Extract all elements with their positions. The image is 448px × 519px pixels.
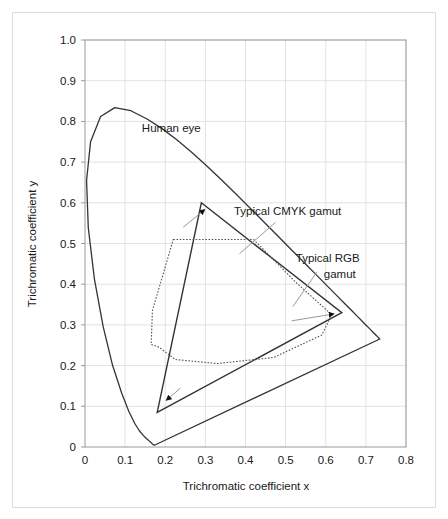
x-tick-labels: 00.10.20.30.40.50.60.70.8 — [82, 454, 414, 466]
chart-annotation-label: Human eye — [142, 122, 201, 134]
rgb-gamut-triangle — [157, 203, 342, 413]
y-tick-label: 0.9 — [60, 75, 76, 87]
x-tick-label: 0 — [82, 454, 88, 466]
y-axis-title: Trichromatic coefficient y — [26, 180, 38, 307]
annotation-labels: Human eyeTypical CMYK gamutTypical RGBga… — [142, 122, 360, 307]
rgb-triangle-path — [157, 203, 342, 413]
x-tick-label: 0.3 — [197, 454, 213, 466]
y-tick-label: 0.5 — [60, 238, 76, 250]
y-tick-label: 0.2 — [60, 360, 76, 372]
annotation-leader-line — [239, 222, 275, 253]
chart-annotation-label: Typical RGB — [296, 252, 360, 264]
chromaticity-diagram: 00.10.20.30.40.50.60.70.8 00.10.20.30.40… — [0, 0, 448, 519]
chart-annotation-label: Typical CMYK gamut — [234, 205, 342, 217]
y-tick-label: 0.6 — [60, 197, 76, 209]
y-tick-label: 0.4 — [60, 278, 77, 290]
y-tick-label: 0.1 — [60, 400, 76, 412]
y-tick-label: 0.7 — [60, 156, 76, 168]
y-tick-label: 0 — [70, 441, 76, 453]
x-tick-label: 0.7 — [358, 454, 374, 466]
x-tick-label: 0.8 — [398, 454, 414, 466]
figure-container: 00.10.20.30.40.50.60.70.8 00.10.20.30.40… — [0, 0, 448, 519]
y-tick-label: 0.8 — [60, 115, 76, 127]
x-tick-label: 0.5 — [278, 454, 294, 466]
annotation-arrow — [166, 388, 180, 400]
x-tick-label: 0.1 — [117, 454, 133, 466]
x-tick-label: 0.6 — [318, 454, 334, 466]
y-tick-label: 1.0 — [60, 34, 76, 46]
x-tick-label: 0.4 — [238, 454, 255, 466]
gridlines — [85, 40, 406, 447]
annotation-arrow — [183, 210, 204, 228]
chart-annotation-label: gamut — [324, 268, 357, 280]
y-tick-label: 0.3 — [60, 319, 76, 331]
x-tick-label: 0.2 — [157, 454, 173, 466]
x-axis-title: Trichromatic coefficient x — [183, 480, 310, 492]
y-tick-labels: 00.10.20.30.40.50.60.70.80.91.0 — [60, 34, 85, 453]
annotation-arrows — [166, 210, 333, 400]
